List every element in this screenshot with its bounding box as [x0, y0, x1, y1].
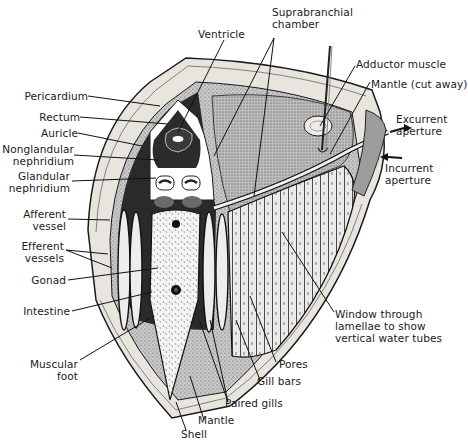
label-paired-gills: Paired gills: [225, 397, 283, 409]
label-line: nephridium: [2, 155, 74, 167]
label-gill-bars: Gill bars: [257, 375, 301, 387]
label-line: aperture: [396, 125, 447, 137]
label-suprabranchial-chamber: Suprabranchial chamber: [272, 6, 353, 30]
label-line: Efferent: [21, 240, 64, 252]
label-line: vessel: [23, 220, 66, 232]
label-nonglandular-nephridium: Nonglandular nephridium: [2, 143, 74, 167]
label-pericardium: Pericardium: [24, 90, 88, 102]
label-gonad: Gonad: [31, 274, 66, 286]
label-incurrent-aperture: Incurrent aperture: [385, 162, 434, 186]
label-line: Glandular: [9, 170, 70, 182]
label-mantle-cut-away: Mantle (cut away): [371, 78, 467, 90]
label-intestine: Intestine: [23, 305, 70, 317]
label-line: Window through: [335, 308, 442, 320]
label-line: Nonglandular: [2, 143, 74, 155]
label-mantle: Mantle: [198, 414, 234, 426]
label-efferent-vessels: Efferent vessels: [21, 240, 64, 264]
label-line: Incurrent: [385, 162, 434, 174]
label-pores: Pores: [279, 358, 308, 370]
label-muscular-foot: Muscular foot: [30, 358, 78, 382]
label-rectum: Rectum: [39, 111, 80, 123]
label-glandular-nephridium: Glandular nephridium: [9, 170, 70, 194]
label-line: Excurrent: [396, 113, 447, 125]
label-line: foot: [30, 370, 78, 382]
label-window-through-lamellae: Window through lamellae to show vertical…: [335, 308, 442, 344]
label-auricle: Auricle: [41, 127, 78, 139]
label-line: Suprabranchial: [272, 6, 353, 18]
label-line: Afferent: [23, 208, 66, 220]
label-line: aperture: [385, 174, 434, 186]
label-adductor-muscle: Adductor muscle: [356, 58, 446, 70]
label-shell: Shell: [181, 428, 207, 440]
label-line: lamellae to show: [335, 320, 442, 332]
label-line: nephridium: [9, 182, 70, 194]
label-line: chamber: [272, 18, 353, 30]
clam-anatomy-diagram: Pericardium Rectum Auricle Nonglandular …: [0, 0, 468, 444]
label-afferent-vessel: Afferent vessel: [23, 208, 66, 232]
label-line: vessels: [21, 252, 64, 264]
label-excurrent-aperture: Excurrent aperture: [396, 113, 447, 137]
label-line: vertical water tubes: [335, 332, 442, 344]
incurrent-arrow: [388, 157, 402, 158]
label-ventricle: Ventricle: [198, 28, 245, 40]
label-line: Muscular: [30, 358, 78, 370]
